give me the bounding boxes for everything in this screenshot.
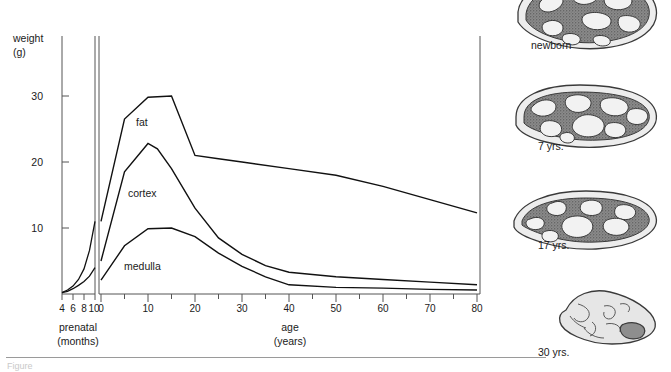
age-tick-label-20: 20 [189,303,201,314]
y-axis-ticks [62,96,69,228]
age-tick-label-30: 30 [236,303,248,314]
postnatal-x-ticks [101,294,477,302]
footer-caption: Figure [7,361,33,371]
curve-medulla [101,228,477,290]
thymus-newborn-caption: newborn [531,39,571,51]
curve-label-cortex: cortex [128,187,157,199]
thymus-30yrs-illustration: 30 yrs. [500,288,671,366]
illustration-column: newborn 7 yrs. [500,0,671,372]
age-axis-label-line1: age [281,321,299,333]
age-tick-label-60: 60 [377,303,389,314]
postnatal-panel-frame [99,36,480,294]
prenatal-curve-cortex [62,221,95,292]
prenatal-axis-label-line2: (months) [57,335,98,347]
age-axis-label-line2: (years) [274,335,307,347]
curve-fat [101,96,477,221]
age-tick-label-80: 80 [471,303,483,314]
thymus-7yrs-illustration: 7 yrs. [500,83,671,159]
y-tick-label-20: 20 [31,156,43,168]
curve-label-medulla: medulla [124,260,161,272]
chart-svg: weight (g) 30 20 10 4 [0,0,500,356]
age-tick-label-0: 0 [98,303,104,314]
prenatal-x-ticks [62,294,95,300]
y-axis-label-line1: weight [12,32,43,44]
thymus-17yrs-illustration: 17 yrs. [500,183,671,259]
curve-label-fat: fat [136,116,148,128]
footer-divider [6,357,546,358]
thymus-17yrs-caption: 17 yrs. [538,239,570,251]
age-tick-label-70: 70 [424,303,436,314]
thymus-weight-figure: weight (g) 30 20 10 4 [0,0,671,372]
thymus-newborn-illustration: newborn [500,0,671,58]
thymus-7yrs-caption: 7 yrs. [538,140,564,152]
prenatal-panel-frame [62,36,95,294]
prenatal-tick-label-8: 8 [81,303,87,314]
prenatal-tick-label-6: 6 [70,303,76,314]
y-axis-label-line2: (g) [13,46,26,58]
prenatal-tick-label-4: 4 [59,303,65,314]
chart-area: weight (g) 30 20 10 4 [0,0,500,372]
y-tick-label-30: 30 [31,90,43,102]
age-tick-label-50: 50 [330,303,342,314]
y-tick-label-10: 10 [31,222,43,234]
age-tick-label-40: 40 [283,303,295,314]
prenatal-axis-label-line1: prenatal [59,321,97,333]
age-tick-label-10: 10 [142,303,154,314]
